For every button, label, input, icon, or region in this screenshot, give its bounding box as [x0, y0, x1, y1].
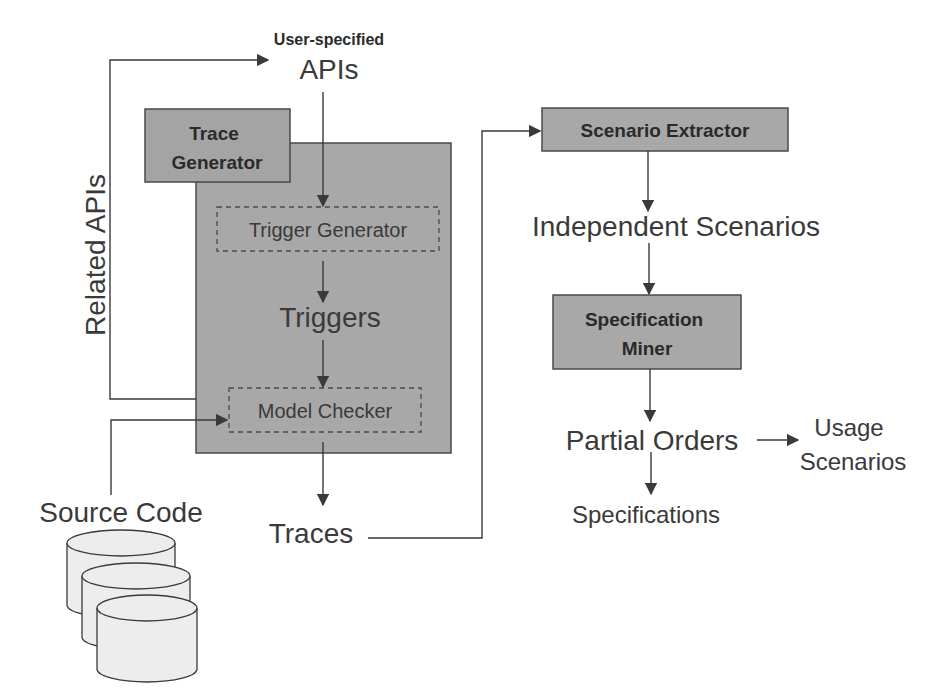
specification-miner-label-2: Miner: [622, 338, 673, 359]
traces-label: Traces: [269, 518, 354, 549]
trigger-generator-label: Trigger Generator: [249, 219, 408, 241]
pipeline-diagram: Trace Generator Trigger Generator Trigge…: [0, 0, 938, 700]
triggers-label: Triggers: [279, 302, 381, 333]
usage-scenarios-label-1: Usage: [814, 414, 883, 441]
source-code-label: Source Code: [39, 497, 202, 528]
specification-miner-label-1: Specification: [585, 309, 703, 330]
trace-generator-label-1: Trace: [189, 123, 239, 144]
model-checker-label: Model Checker: [258, 400, 393, 422]
apis-label: APIs: [299, 54, 358, 85]
partial-orders-label: Partial Orders: [566, 425, 739, 456]
scenario-extractor-label: Scenario Extractor: [581, 120, 751, 141]
independent-scenarios-label: Independent Scenarios: [532, 211, 820, 242]
related-apis-label: Related APIs: [80, 174, 111, 336]
source-code-database-icon: [67, 530, 197, 682]
trace-generator-label-2: Generator: [172, 152, 263, 173]
specifications-label: Specifications: [572, 501, 720, 528]
user-specified-label: User-specified: [274, 31, 384, 48]
usage-scenarios-label-2: Scenarios: [800, 448, 907, 475]
